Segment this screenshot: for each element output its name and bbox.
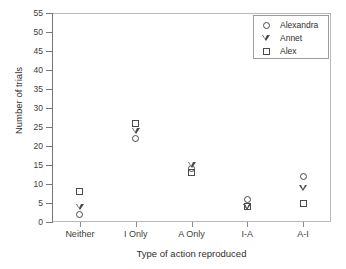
y-axis-tick [46,146,52,147]
legend: AlexandraAnnetAlex [253,15,329,59]
y-axis-tick [46,184,52,185]
legend-marker-triangle-down-icon [262,35,270,41]
data-point [76,204,84,210]
data-point [76,188,83,195]
x-axis-tick [192,222,193,227]
x-axis-tick-label: I-A [215,230,279,239]
data-point [300,200,307,207]
x-axis-tick [136,222,137,227]
y-axis-tick [46,89,52,90]
data-point [188,162,196,168]
y-axis-tick [46,32,52,33]
data-point [132,120,139,127]
data-point [244,196,251,203]
data-point [132,128,140,134]
y-axis-tick-label: 10 [0,180,43,189]
x-axis-tick [303,222,304,227]
y-axis-line [52,13,53,223]
y-axis-tick [46,127,52,128]
y-axis-tick [46,222,52,223]
legend-item-label: Annet [280,34,302,43]
legend-item: Alex [254,45,328,58]
legend-item-label: Alex [280,47,297,56]
y-axis-tick-label: 55 [0,9,43,18]
legend-marker-circle-icon [263,22,270,29]
legend-item: Annet [254,32,328,45]
x-axis-tick [247,222,248,227]
legend-marker-square-icon [263,48,270,55]
x-axis-tick-label: Neither [48,230,112,239]
data-point [300,173,307,180]
data-point [244,203,251,210]
scatter-plot-figure: 0510152025303540455055 Number of trials … [0,0,346,269]
y-axis-title: Number of trials [13,41,24,161]
legend-item: Alexandra [254,19,328,32]
y-axis-tick [46,70,52,71]
y-axis-tick [46,203,52,204]
x-axis-tick-label: I Only [104,230,168,239]
y-axis-tick-label: 50 [0,28,43,37]
y-axis-tick-label: 0 [0,218,43,227]
x-axis-title: Type of action reproduced [52,248,331,259]
y-axis-tick [46,51,52,52]
data-point [299,185,307,191]
y-axis-tick-label: 5 [0,199,43,208]
data-point [188,169,195,176]
x-axis-tick-label: A-I [271,230,335,239]
x-axis-tick-label: A Only [160,230,224,239]
y-axis-tick [46,165,52,166]
y-axis-tick [46,108,52,109]
y-axis-tick-label: 15 [0,161,43,170]
x-axis-tick [80,222,81,227]
legend-item-label: Alexandra [280,21,318,30]
y-axis-tick [46,13,52,14]
